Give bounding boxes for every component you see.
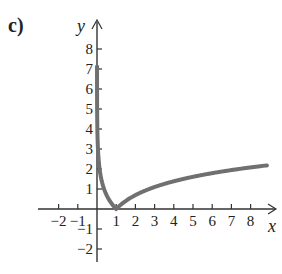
svg-text:2: 2 xyxy=(132,213,140,229)
x-tick: 3 xyxy=(151,204,159,229)
y-axis-label: y xyxy=(75,16,85,36)
y-tick: −2 xyxy=(77,241,102,257)
x-tick: 4 xyxy=(170,204,178,229)
y-tick: 1 xyxy=(86,181,103,197)
svg-text:4: 4 xyxy=(86,121,94,137)
svg-text:6: 6 xyxy=(208,213,216,229)
svg-text:8: 8 xyxy=(247,213,255,229)
svg-text:−1: −1 xyxy=(77,221,93,237)
x-tick: 6 xyxy=(208,204,216,229)
svg-text:−2: −2 xyxy=(51,213,67,229)
svg-text:−2: −2 xyxy=(77,241,93,257)
x-axis-label: x xyxy=(267,216,276,236)
y-tick: 4 xyxy=(86,121,103,137)
x-tick: 7 xyxy=(228,204,236,229)
y-tick: 8 xyxy=(86,41,103,57)
y-tick: −1 xyxy=(77,221,102,237)
y-tick: 5 xyxy=(86,101,103,117)
svg-text:7: 7 xyxy=(228,213,236,229)
x-tick: −2 xyxy=(51,204,67,229)
svg-text:8: 8 xyxy=(86,41,94,57)
svg-text:1: 1 xyxy=(86,181,94,197)
chart: xy−2−112345678−2−112345678 xyxy=(0,0,282,274)
svg-text:1: 1 xyxy=(112,213,120,229)
function-curve xyxy=(97,66,267,209)
x-tick: 8 xyxy=(247,204,255,229)
y-tick: 7 xyxy=(86,61,103,77)
svg-text:3: 3 xyxy=(151,213,159,229)
svg-text:4: 4 xyxy=(170,213,178,229)
svg-text:5: 5 xyxy=(86,101,94,117)
svg-text:3: 3 xyxy=(86,141,94,157)
y-tick: 6 xyxy=(86,81,103,97)
svg-text:5: 5 xyxy=(189,213,197,229)
svg-text:7: 7 xyxy=(86,61,94,77)
x-tick: 5 xyxy=(189,204,197,229)
x-tick: 2 xyxy=(132,204,140,229)
svg-text:2: 2 xyxy=(86,161,94,177)
svg-text:6: 6 xyxy=(86,81,94,97)
